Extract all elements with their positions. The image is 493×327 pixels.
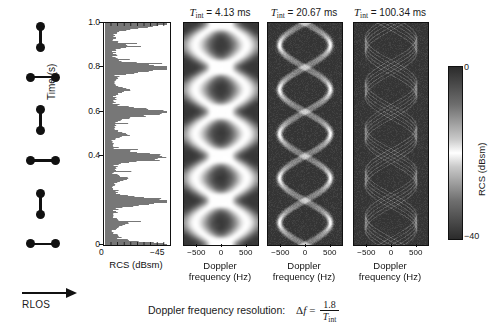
spec3-x-tick-0: −500	[357, 248, 375, 257]
spec3-x-tickmark-1	[391, 244, 392, 247]
resolution-fraction: 1.8 Tint	[320, 298, 339, 325]
dumbbell-pose-5	[36, 189, 45, 219]
spec1-x-tick-0: −500	[187, 248, 205, 257]
colorbar-label: RCS (dBsm)	[476, 143, 487, 196]
dumbbell-pose-1	[36, 22, 45, 52]
rcs-y-tick-4: 0	[78, 239, 100, 249]
rcs-y-tick-1: 0.8	[78, 61, 100, 71]
spec1-x-tickmark-2	[246, 244, 247, 247]
rlos-label: RLOS	[22, 299, 50, 310]
rcs-y-tick-2: 0.6	[78, 106, 100, 116]
spec1-x-tick-2: 500	[239, 248, 252, 257]
fraction-denominator: Tint	[323, 310, 336, 322]
rcs-y-tickmark-4	[99, 244, 103, 245]
target-pose-column	[14, 14, 86, 264]
spec2-x-tick-2: 500	[323, 248, 336, 257]
dumbbell-pose-6	[26, 239, 60, 248]
spectrogram-panel-3	[353, 22, 429, 246]
rcs-y-tickmark-3	[99, 155, 103, 156]
colorbar-max-label: 0	[464, 62, 469, 72]
rcs-x-tick-1: −45	[150, 247, 164, 257]
colorbar-min-label: −40	[464, 231, 479, 241]
spec2-x-axis-label: Dopplerfrequency (Hz)	[257, 260, 351, 282]
spectrogram-panel-1	[183, 22, 259, 246]
spec3-x-tick-2: 500	[409, 248, 422, 257]
colorbar	[448, 66, 463, 240]
rcs-y-tickmark-1	[99, 66, 103, 67]
figure-root: RLOS Time (s) 0 −45 RCS (dBsm) 0 −40 RCS…	[0, 0, 493, 327]
resolution-caption: Doppler frequency resolution:	[148, 304, 285, 316]
spec2-x-tickmark-1	[305, 244, 306, 247]
spec2-x-tickmark-2	[330, 244, 331, 247]
rcs-y-tickmark-0	[99, 22, 103, 23]
rcs-y-tick-0: 1.0	[78, 17, 100, 27]
resolution-equation-line: Doppler frequency resolution: Δf = 1.8 T…	[148, 298, 339, 325]
spec1-x-tick-1: 0	[219, 248, 223, 257]
equals-symbol: =	[309, 304, 315, 316]
rcs-x-axis-label: RCS (dBsm)	[103, 259, 169, 270]
spec3-x-tickmark-0	[366, 244, 367, 247]
dumbbell-pose-3	[36, 105, 45, 135]
rcs-plot-area	[103, 22, 171, 246]
rlos-arrow-icon	[22, 288, 78, 298]
spec3-x-axis-label: Dopplerfrequency (Hz)	[343, 260, 437, 282]
f-symbol: f	[303, 304, 306, 316]
spec2-x-tick-1: 0	[303, 248, 307, 257]
spec3-x-tick-1: 0	[389, 248, 393, 257]
spec2-x-tickmark-0	[280, 244, 281, 247]
rcs-y-axis-label: Time (s)	[46, 64, 57, 100]
spec2-x-tick-0: −500	[271, 248, 289, 257]
spec1-x-axis-label: Dopplerfrequency (Hz)	[173, 260, 267, 282]
rcs-y-tickmark-2	[99, 111, 103, 112]
spectrogram-panel-2	[267, 22, 343, 246]
spec1-x-tickmark-0	[196, 244, 197, 247]
spectrogram-title-3: Tint = 100.34 ms	[339, 6, 441, 20]
spec3-x-tickmark-2	[416, 244, 417, 247]
dumbbell-pose-4	[26, 156, 60, 165]
rcs-y-tick-3: 0.4	[78, 150, 100, 160]
spec1-x-tickmark-1	[221, 244, 222, 247]
